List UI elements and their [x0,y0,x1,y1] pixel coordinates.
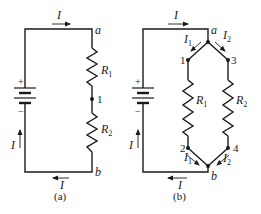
node-a-label: a [95,23,101,37]
node-a-dot [206,40,210,44]
battery-icon [132,88,154,103]
battery-plus-sign: + [135,76,141,87]
wire-a-to-3 [208,42,228,80]
current-label-left: I [128,138,134,152]
node-b-label: b [95,165,101,179]
node-1-dot [186,58,190,62]
panel-b-caption: (b) [173,190,186,203]
wire-b-bottom [143,104,208,172]
node-1-label: 1 [97,93,103,105]
node-2-label: 2 [180,142,186,154]
node-1-dot [90,97,94,101]
node-b-label: b [211,169,217,183]
resistor-r1-icon [87,48,97,86]
wire-a-bottom [25,104,92,172]
current-label-top: I [56,8,62,22]
node-4-dot [226,146,230,150]
battery-plus-sign: + [18,76,24,87]
resistor-r2-icon [223,80,233,136]
panel-a-series-circuit: + − I I I a 1 b R1 R2 (a) [10,8,112,203]
node-a-label: a [211,23,217,37]
panel-b-parallel-circuit: + − I I I I1 I2 I1 I2 a 1 3 2 4 b R1 R2 … [128,8,247,203]
panel-a-caption: (a) [54,190,67,203]
resistor-r2-label: R2 [100,122,112,138]
resistor-r2-label: R2 [235,93,247,109]
current-label-left: I [10,138,16,152]
node-b-dot [206,164,210,168]
node-1-label: 1 [180,54,186,66]
branch-current-i2-top-label: I2 [222,28,231,44]
branch-current-i2-bottom-label: I2 [222,151,231,167]
wire-b-top [143,29,208,88]
resistor-r1-label: R1 [100,63,112,79]
wire-a-top [25,29,92,88]
circuit-figure: + − I I I a 1 b R1 R2 (a) [0,0,261,214]
battery-icon [14,88,36,103]
node-3-label: 3 [231,54,237,66]
branch-current-i1-top-label: I1 [183,32,192,48]
current-label-top: I [173,8,179,22]
resistor-r1-icon [183,80,193,136]
node-3-dot [226,58,230,62]
battery-minus-sign: − [135,106,141,117]
resistor-r1-label: R1 [195,93,207,109]
resistor-r2-icon [87,113,97,152]
battery-minus-sign: − [18,106,24,117]
node-4-label: 4 [233,142,239,154]
